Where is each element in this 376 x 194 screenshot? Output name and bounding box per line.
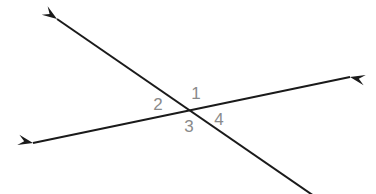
angle-diagram-figure: 1 2 3 4 — [0, 0, 376, 194]
figure-background — [0, 0, 376, 194]
angle-label-2: 2 — [153, 95, 162, 114]
diagram-canvas: 1 2 3 4 — [0, 0, 376, 194]
angle-label-3: 3 — [184, 117, 193, 136]
angle-label-1: 1 — [191, 84, 200, 103]
angle-label-4: 4 — [214, 110, 223, 129]
